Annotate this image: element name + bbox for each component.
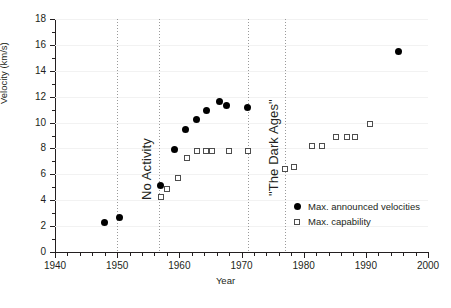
x-axis-tick-minor [67,253,68,256]
y-axis-tick-label-wrap: 14 [0,66,46,76]
data-point-marker [171,146,178,153]
filled-circle-marker-icon [294,203,308,210]
x-axis-tick-major [304,253,305,258]
y-axis-tick-minor [52,136,55,137]
y-axis-tick-minor [52,187,55,188]
x-axis-tick-minor [130,253,131,256]
y-axis-tick-label: 16 [35,40,46,50]
open-square-marker-icon [294,219,308,225]
data-point-marker [226,148,232,154]
y-axis-tick-minor [52,161,55,162]
x-axis-tick-label: 1950 [97,260,137,271]
y-axis-tick-minor [52,239,55,240]
y-axis-tick-major [50,200,55,201]
x-axis-tick-major [366,253,367,258]
y-axis-tick-major [50,148,55,149]
y-axis-tick-major [50,226,55,227]
data-point-marker [309,143,315,149]
era-divider-line [285,19,286,252]
x-axis-tick-major [179,253,180,258]
data-point-marker [352,134,358,140]
x-axis-tick-minor [341,253,342,256]
x-axis-tick-minor [291,253,292,256]
x-axis-tick-minor [403,253,404,256]
gridline-horizontal [55,45,428,46]
x-axis-tick-minor [192,253,193,256]
era-annotation-label: "The Dark Ages" [266,99,281,196]
x-axis-tick-label: 1980 [284,260,324,271]
x-axis-tick-minor [279,253,280,256]
x-axis-tick-minor [391,253,392,256]
data-point-marker [101,219,108,226]
y-axis-tick-major [50,174,55,175]
y-axis-tick-label-wrap: 10 [0,118,46,128]
x-axis-tick-minor [329,253,330,256]
y-axis-tick-minor [52,84,55,85]
x-axis-tick-minor [353,253,354,256]
x-axis-tick-label: 2000 [408,260,448,271]
y-axis-tick-minor [52,32,55,33]
x-axis-tick-minor [80,253,81,256]
data-point-marker [333,134,339,140]
x-axis-tick-major [428,253,429,258]
data-point-marker [203,107,210,114]
x-axis-tick-major [242,253,243,258]
x-axis-tick-label: 1970 [222,260,262,271]
data-point-marker [244,104,251,111]
x-axis-tick-label: 1940 [35,260,75,271]
x-axis-tick-major [117,253,118,258]
y-axis-tick-label-wrap: 2 [0,221,46,231]
x-axis-tick-minor [92,253,93,256]
x-axis-tick-minor [204,253,205,256]
data-point-marker [395,48,402,55]
y-axis-tick-label: 14 [35,66,46,76]
data-point-marker [223,102,230,109]
x-axis-tick-minor [142,253,143,256]
y-axis-tick-major [50,19,55,20]
gridline-horizontal [55,71,428,72]
y-axis-tick-label-wrap: 8 [0,143,46,153]
y-axis-tick-label-wrap: 4 [0,195,46,205]
y-axis-tick-label-wrap: 16 [0,40,46,50]
legend-label: Max. announced velocities [308,199,420,214]
data-point-marker [209,148,215,154]
data-point-marker [344,134,350,140]
velocity-vs-year-scatter-chart: Velocity (km/s) Year Max. announced velo… [0,0,451,308]
x-axis-tick-minor [378,253,379,256]
chart-legend: Max. announced velocities Max. capabilit… [294,199,420,229]
x-axis-title: Year [0,275,451,286]
x-axis-tick-minor [316,253,317,256]
y-axis-tick-major [50,71,55,72]
data-point-marker [164,186,170,192]
x-axis-tick-minor [167,253,168,256]
x-axis-tick-label: 1960 [159,260,199,271]
legend-item-max-capability: Max. capability [294,214,420,229]
x-axis-tick-label: 1990 [346,260,386,271]
legend-item-announced-velocities: Max. announced velocities [294,199,420,214]
x-axis-tick-minor [254,253,255,256]
y-axis-tick-label: 18 [35,14,46,24]
y-axis-tick-major [50,45,55,46]
x-axis-tick-minor [229,253,230,256]
data-point-marker [158,194,164,200]
y-axis-tick-label: 12 [35,92,46,102]
data-point-marker [194,148,200,154]
y-axis-tick-minor [52,110,55,111]
x-axis-tick-minor [105,253,106,256]
x-axis-tick-minor [154,253,155,256]
era-annotation-label: No Activity [139,138,154,200]
gridline-horizontal [55,174,428,175]
x-axis-tick-minor [416,253,417,256]
data-point-marker [367,121,373,127]
legend-label: Max. capability [308,214,371,229]
data-point-marker [175,175,181,181]
era-divider-line [159,19,160,252]
y-axis-tick-label: 10 [35,118,46,128]
y-axis-tick-minor [52,58,55,59]
data-point-marker [184,155,190,161]
x-axis-tick-minor [217,253,218,256]
y-axis-tick-label-wrap: 18 [0,14,46,24]
y-axis-tick-label: 6 [40,169,46,179]
y-axis-tick-minor [52,213,55,214]
era-divider-line [248,19,249,252]
